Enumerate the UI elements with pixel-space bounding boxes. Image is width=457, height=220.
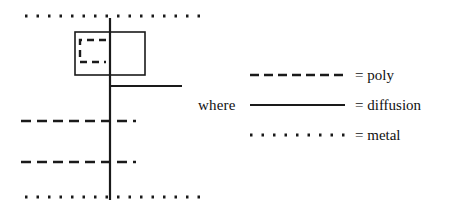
dotted-line-icon (250, 132, 345, 138)
legend-item-metal: = metal (250, 123, 401, 147)
legend-where-label: where (198, 97, 236, 114)
legend-label-poly: = poly (355, 67, 394, 84)
dashed-line-icon (250, 72, 345, 78)
legend-sample-diffusion (250, 99, 345, 111)
legend-label-metal: = metal (355, 127, 401, 144)
legend-item-diffusion: = diffusion (250, 93, 421, 117)
figure-root: where = poly = diffusion (0, 0, 457, 220)
legend-sample-poly (250, 69, 345, 81)
legend-sample-metal (250, 129, 345, 141)
legend-label-diffusion: = diffusion (355, 97, 421, 114)
legend: where = poly = diffusion (190, 55, 457, 160)
legend-item-poly: = poly (250, 63, 394, 87)
solid-line-icon (250, 102, 345, 108)
inner-poly-shape-icon (80, 40, 106, 62)
